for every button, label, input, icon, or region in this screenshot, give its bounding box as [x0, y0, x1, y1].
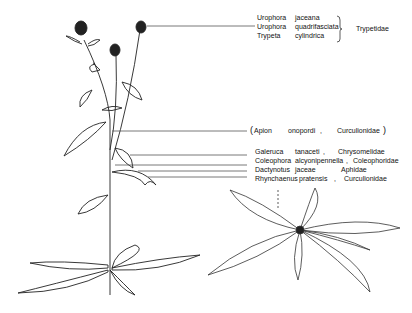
open-paren: (	[250, 126, 253, 134]
genus: Galeruca	[255, 148, 283, 156]
leader-lines	[112, 26, 255, 177]
genus: Dactynotus	[255, 166, 290, 174]
family: Coleophoridae	[353, 157, 399, 165]
family: Curculionidae	[337, 127, 380, 135]
species: quadrifasciata	[295, 23, 339, 31]
species: jaceana	[295, 14, 320, 22]
comma: ,	[320, 127, 322, 135]
family-trypetidae: Trypetidae	[356, 25, 389, 33]
genus: Apion	[254, 127, 272, 135]
genus: Rhynchaenus	[255, 175, 298, 183]
family: Curculionidae	[344, 175, 387, 183]
species: cylindrica	[295, 32, 324, 40]
family: Aphidae	[341, 166, 367, 174]
flowering-plant	[18, 21, 200, 295]
comma: ,	[346, 157, 348, 165]
close-paren: )	[383, 126, 386, 134]
genus: Urophora	[257, 23, 286, 31]
species: onopordi	[288, 127, 315, 135]
plant-illustration	[0, 0, 412, 313]
species: jaceae	[295, 166, 316, 174]
species: alcyonipennella	[295, 157, 343, 165]
genus: Urophora	[257, 14, 286, 22]
comma: ,	[323, 148, 325, 156]
genus: Coleophora	[255, 157, 291, 165]
species: tanaceti	[295, 148, 320, 156]
family: Chrysomelidae	[338, 148, 385, 156]
rosette-plant	[208, 188, 400, 292]
genus: Trypeta	[257, 32, 280, 40]
species: pratensis	[299, 175, 327, 183]
flower-head	[75, 21, 146, 56]
comma: ,	[334, 175, 336, 183]
